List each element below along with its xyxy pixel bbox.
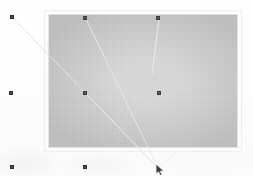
canvas-panel-surface[interactable]	[48, 14, 238, 148]
handle-canvas-mid-left[interactable]	[83, 91, 87, 95]
handle-outer-mid-left[interactable]	[9, 91, 13, 95]
canvas-panel[interactable]	[44, 10, 242, 152]
handle-canvas-mid-right[interactable]	[157, 91, 161, 95]
screenshot-root	[0, 0, 253, 176]
handle-canvas-top-right[interactable]	[156, 16, 160, 20]
handle-outer-top-left[interactable]	[10, 15, 14, 19]
guide-pointer-tail	[158, 152, 176, 168]
handle-canvas-top-left[interactable]	[83, 16, 87, 20]
handle-outer-bottom-mid[interactable]	[83, 165, 87, 169]
handle-outer-bottom-left[interactable]	[10, 165, 14, 169]
wash-blob-bottom-mid	[60, 150, 140, 176]
mouse-pointer	[155, 163, 166, 176]
